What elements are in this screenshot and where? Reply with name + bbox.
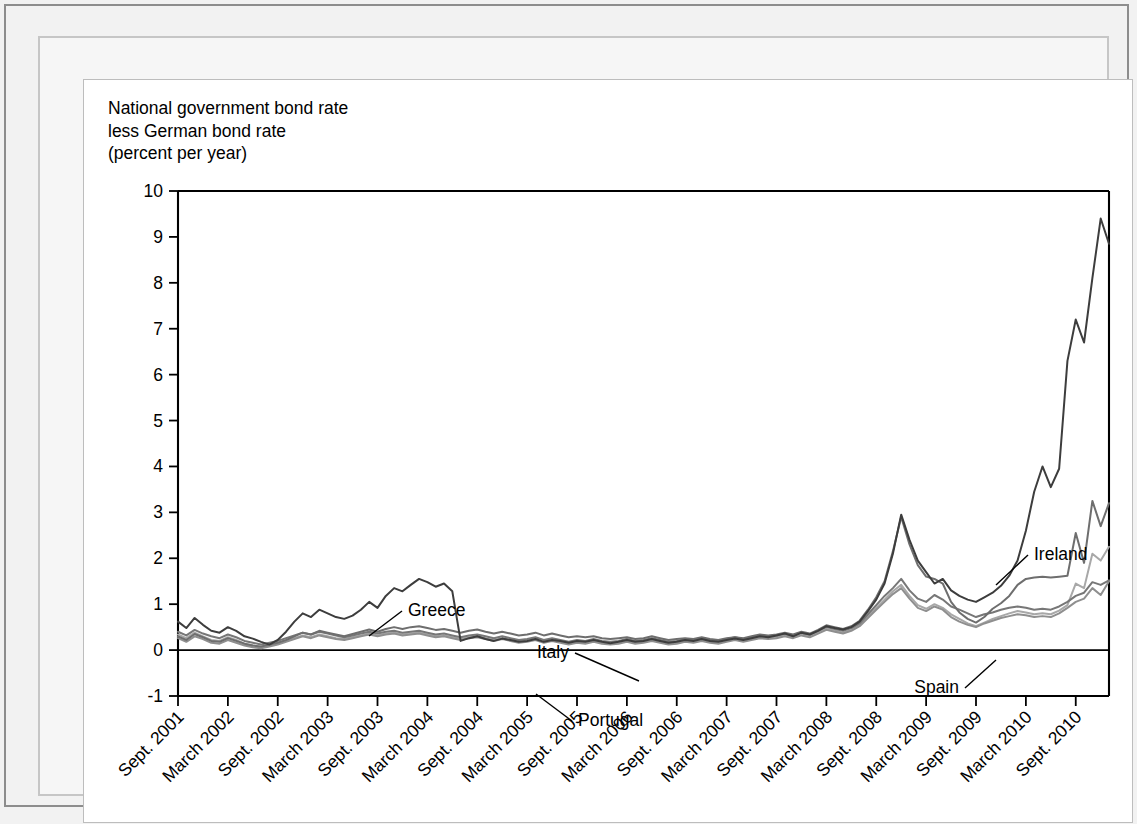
series-label-italy: Italy	[537, 642, 569, 662]
chart-card: National government bond rate less Germa…	[83, 79, 1133, 823]
series-label-greece: Greece	[408, 600, 465, 620]
series-label-spain: Spain	[914, 677, 959, 697]
y-tick-label: 10	[144, 181, 164, 201]
y-tick-label: 1	[153, 594, 163, 614]
annotation-leader-spain	[965, 660, 996, 688]
figure-outer-frame: National government bond rate less Germa…	[4, 4, 1129, 807]
line-chart: -1012345678910Sept. 2001March 2002Sept. …	[84, 80, 1134, 824]
series-label-ireland: Ireland	[1034, 544, 1088, 564]
y-tick-label: 6	[153, 365, 163, 385]
annotation-leader-italy	[575, 653, 639, 681]
y-tick-label: 0	[153, 640, 163, 660]
y-tick-label: 3	[153, 502, 163, 522]
annotation-leader-portugal	[536, 694, 572, 721]
y-tick-label: 4	[153, 456, 163, 476]
y-tick-label: 5	[153, 411, 163, 431]
y-tick-label: 7	[153, 319, 163, 339]
figure-panel-frame: National government bond rate less Germa…	[38, 36, 1109, 796]
y-tick-label: 8	[153, 273, 163, 293]
y-tick-label: 9	[153, 227, 163, 247]
series-line-greece	[178, 219, 1109, 645]
y-tick-label: -1	[147, 686, 163, 706]
series-label-portugal: Portugal	[578, 710, 643, 730]
y-tick-label: 2	[153, 548, 163, 568]
